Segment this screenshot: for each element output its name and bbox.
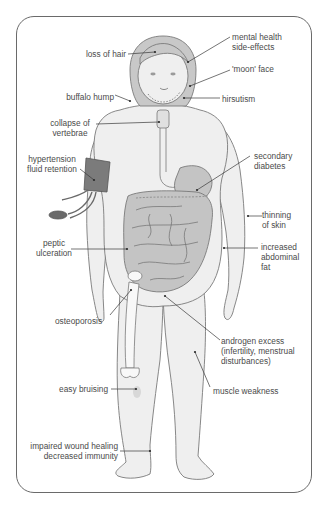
label-text: 'moon' face xyxy=(232,64,274,74)
label-loss-of-hair: loss of hair xyxy=(44,49,126,59)
label-text: decreased immunity xyxy=(20,451,118,461)
label-text: peptic xyxy=(30,238,78,248)
label-text: hypertension xyxy=(18,154,86,164)
label-text: increased xyxy=(261,242,299,252)
label-text: buffalo hump xyxy=(66,92,114,102)
head xyxy=(130,36,196,106)
label-text: vertebrae xyxy=(42,128,98,138)
label-text: loss of hair xyxy=(86,49,126,59)
label-androgen-excess: androgen excess (infertility, menstrual … xyxy=(221,336,295,367)
label-hirsutism: hirsutism xyxy=(222,94,255,104)
label-text: fat xyxy=(261,262,299,272)
label-hypertension: hypertension fluid retention xyxy=(18,154,86,174)
label-text: mental health xyxy=(232,32,282,42)
label-text: easy bruising xyxy=(59,384,108,394)
label-osteoporosis: osteoporosis xyxy=(55,316,102,326)
label-text: fluid retention xyxy=(18,164,86,174)
label-collapse-of-vertebrae: collapse of vertebrae xyxy=(42,118,98,138)
label-secondary-diabetes: secondary diabetes xyxy=(254,151,292,171)
label-text: disturbances) xyxy=(221,356,295,366)
label-increased-abdominal-fat: increased abdominal fat xyxy=(261,242,299,273)
label-peptic-ulceration: peptic ulceration xyxy=(30,238,78,258)
label-text: androgen excess xyxy=(221,336,295,346)
label-text: hirsutism xyxy=(222,94,255,104)
label-text: (infertility, menstrual xyxy=(221,346,295,356)
label-text: of skin xyxy=(262,220,291,230)
label-text: ulceration xyxy=(30,248,78,258)
label-wound-healing-immunity: impaired wound healing decreased immunit… xyxy=(20,441,118,461)
label-muscle-weakness: muscle weakness xyxy=(213,386,278,396)
label-moon-face: 'moon' face xyxy=(232,64,274,74)
bruise-mark xyxy=(133,386,141,398)
label-thinning-of-skin: thinning of skin xyxy=(262,210,291,230)
label-mental-health: mental health side-effects xyxy=(232,32,282,52)
label-text: muscle weakness xyxy=(213,386,278,396)
label-text: side-effects xyxy=(232,42,282,52)
label-buffalo-hump: buffalo hump xyxy=(40,92,114,102)
label-text: diabetes xyxy=(254,161,292,171)
label-text: secondary xyxy=(254,151,292,161)
label-text: thinning xyxy=(262,210,291,220)
label-text: osteoporosis xyxy=(55,316,102,326)
label-text: abdominal xyxy=(261,252,299,262)
label-text: collapse of xyxy=(42,118,98,128)
label-text: impaired wound healing xyxy=(20,441,118,451)
label-easy-bruising: easy bruising xyxy=(40,384,108,394)
